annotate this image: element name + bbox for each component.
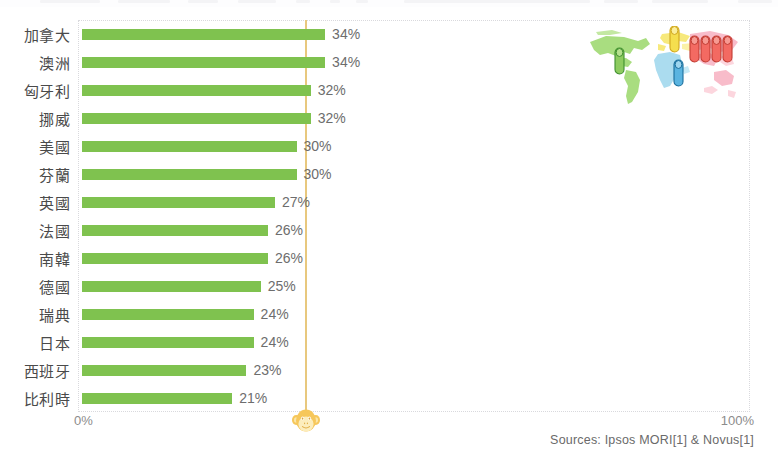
bar-row-label: 匈牙利	[0, 80, 70, 101]
bar	[82, 225, 268, 236]
bar-value-label: 24%	[261, 306, 289, 322]
bar-container: 34%	[82, 20, 360, 48]
bar	[82, 85, 311, 96]
figure-person-green	[615, 48, 624, 74]
bar	[82, 281, 261, 292]
bar-row-label: 德國	[0, 276, 70, 297]
bar-row-label: 挪威	[0, 108, 70, 129]
cropped-toolbar-strip	[0, 0, 778, 7]
bar-row: 瑞典24%	[0, 300, 778, 328]
bar	[82, 169, 297, 180]
bar	[82, 197, 275, 208]
bar-value-label: 30%	[304, 166, 332, 182]
bar-value-label: 24%	[261, 334, 289, 350]
bar-row-label: 日本	[0, 332, 70, 353]
figure-person-red-4	[723, 36, 732, 62]
bar-row: 西班牙23%	[0, 356, 778, 384]
bar-value-label: 30%	[304, 138, 332, 154]
bar-row: 法國26%	[0, 216, 778, 244]
bar-row-label: 英國	[0, 192, 70, 213]
bar-row: 比利時21%	[0, 384, 778, 412]
bar-row-label: 加拿大	[0, 24, 70, 45]
bar-value-label: 32%	[318, 110, 346, 126]
bar	[82, 309, 254, 320]
bar-row-label: 西班牙	[0, 360, 70, 381]
bar-row: 芬蘭30%	[0, 160, 778, 188]
bar	[82, 141, 297, 152]
bar-row-label: 比利時	[0, 388, 70, 409]
bar-value-label: 27%	[282, 194, 310, 210]
bar	[82, 113, 311, 124]
bar-container: 24%	[82, 328, 289, 356]
bar-value-label: 34%	[332, 26, 360, 42]
figure-person-red-2	[701, 36, 710, 62]
bar-container: 26%	[82, 216, 303, 244]
bar-container: 27%	[82, 188, 310, 216]
bar	[82, 365, 246, 376]
axis-label-max: 100%	[721, 413, 754, 428]
bar-value-label: 32%	[318, 82, 346, 98]
bar-container: 30%	[82, 132, 332, 160]
bar-container: 30%	[82, 160, 332, 188]
bar-row-label: 瑞典	[0, 304, 70, 325]
bar	[82, 57, 325, 68]
bar-value-label: 25%	[268, 278, 296, 294]
bar-value-label: 23%	[253, 362, 281, 378]
bar-value-label: 21%	[239, 390, 267, 406]
bar-row: 南韓26%	[0, 244, 778, 272]
bar-row-label: 法國	[0, 220, 70, 241]
bar-row-label: 美國	[0, 136, 70, 157]
bar-value-label: 26%	[275, 222, 303, 238]
bar-container: 32%	[82, 76, 346, 104]
map-region-africa	[654, 52, 690, 88]
bar-container: 32%	[82, 104, 346, 132]
bar-container: 24%	[82, 300, 289, 328]
bar	[82, 29, 325, 40]
figure-person-red-1	[690, 36, 699, 62]
world-map-population-pictogram	[586, 26, 744, 108]
bar-value-label: 26%	[275, 250, 303, 266]
bar-row-label: 芬蘭	[0, 164, 70, 185]
bar-container: 26%	[82, 244, 303, 272]
bar-container: 21%	[82, 384, 267, 412]
bar	[82, 253, 268, 264]
bar-row: 英國27%	[0, 188, 778, 216]
bar-container: 34%	[82, 48, 360, 76]
bar	[82, 337, 254, 348]
bar-row: 美國30%	[0, 132, 778, 160]
figure-person-blue	[674, 60, 683, 86]
bar-row-label: 南韓	[0, 248, 70, 269]
figure-person-yellow	[670, 26, 679, 52]
bar-row: 挪威32%	[0, 104, 778, 132]
bar-container: 23%	[82, 356, 281, 384]
bar-row: 德國25%	[0, 272, 778, 300]
axis-label-min: 0%	[74, 413, 93, 428]
bar-container: 25%	[82, 272, 296, 300]
bar-value-label: 34%	[332, 54, 360, 70]
sources-note: Sources: Ipsos MORI[1] & Novus[1]	[550, 433, 754, 447]
figure-person-red-3	[712, 36, 721, 62]
bar	[82, 393, 232, 404]
bar-row-label: 澳洲	[0, 52, 70, 73]
bar-row: 日本24%	[0, 328, 778, 356]
